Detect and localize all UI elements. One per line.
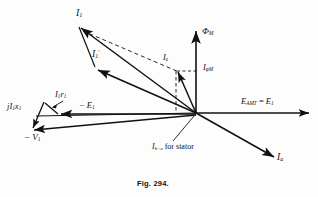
figure-caption: Fig. 294. [137,179,169,188]
vector-ji1x1 [33,102,44,128]
label-ia: Ia [277,153,283,163]
figure-canvas: I1 I1' Iz IφM ΦM EAMT = E1 − E1 − V1 I1r… [0,0,318,197]
label-minus-e1: − E1 [79,101,95,110]
label-ji1x1: jI1x1 [7,102,21,111]
vector-minus-v1 [34,115,196,130]
label-minus-v1: − V1 [24,133,41,143]
label-i1-prime: I1' [92,50,99,60]
leader-ihe [173,116,194,141]
label-ihe-for-stator: Ih+e for stator [152,143,194,152]
vector-ia [196,113,274,157]
label-i1: I1 [76,8,82,19]
label-iz: Iz [163,53,168,62]
label-phi-m: ΦM [202,27,214,37]
leader-i1r1-head [52,105,57,109]
label-e-amt-equals-e1: EAMT = E1 [241,97,274,106]
label-i-phi-m: IφM [203,63,213,72]
label-i1r1: I1r1 [55,90,66,99]
